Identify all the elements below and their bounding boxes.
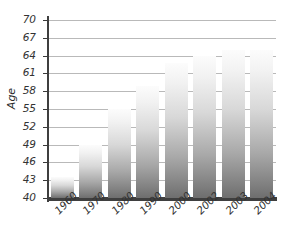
- bars-layer: [48, 20, 276, 198]
- y-tick-label: 61: [0, 66, 36, 78]
- y-tick-label: 64: [0, 49, 36, 61]
- y-axis-title: Age: [5, 76, 18, 122]
- y-tick-label: 40: [0, 191, 36, 203]
- y-tick-label: 70: [0, 13, 36, 25]
- y-tick-label: 49: [0, 138, 36, 150]
- bar-2003[interactable]: [222, 50, 245, 198]
- y-tick-label: 58: [0, 84, 36, 96]
- bar-chart: Age 7067646158555249464340 1960197019801…: [0, 0, 283, 250]
- bar-2004[interactable]: [250, 50, 273, 198]
- x-axis-labels: 19601970198019902000200220032004: [48, 202, 276, 248]
- y-tick-label: 55: [0, 102, 36, 114]
- y-tick-label: 46: [0, 155, 36, 167]
- y-tick-label: 43: [0, 173, 36, 185]
- y-tick-label: 67: [0, 31, 36, 43]
- bar-2002[interactable]: [193, 56, 216, 198]
- bar-1980[interactable]: [108, 109, 131, 198]
- bar-1990[interactable]: [136, 86, 159, 198]
- bar-2000[interactable]: [165, 63, 188, 198]
- y-tick-label: 52: [0, 120, 36, 132]
